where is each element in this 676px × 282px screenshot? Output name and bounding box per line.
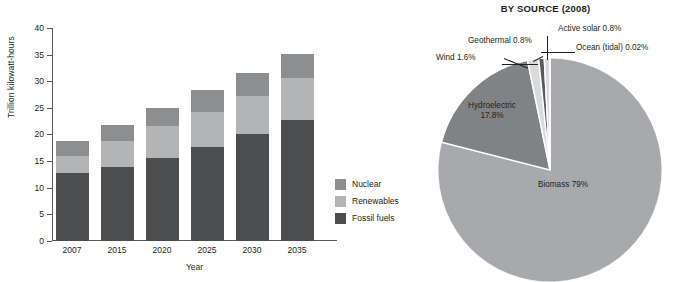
y-axis-tick-label: 40	[16, 23, 44, 33]
pie-label-hydroelectric-name: Hydroelectric	[453, 101, 531, 111]
legend-item-label: Fossil fuels	[352, 213, 395, 223]
y-axis-tick	[47, 214, 52, 215]
y-axis-tick	[47, 81, 52, 82]
y-axis-tick-label: 25	[16, 103, 44, 113]
y-axis-tick	[47, 241, 52, 242]
x-axis-tick-label: 2035	[272, 245, 322, 255]
bar-segment-nuclear-2030	[236, 73, 269, 95]
y-axis-tick	[47, 161, 52, 162]
legend-item-label: Nuclear	[352, 179, 381, 189]
bar-chart-legend: Nuclear Renewables Fossil fuels	[335, 176, 415, 227]
chart-page: Trillion kilowatt-hours 40 35 30 25 20 1…	[0, 0, 676, 282]
y-axis-line	[52, 28, 53, 241]
bar-segment-nuclear-2020	[146, 108, 179, 127]
x-axis-tick-label: 2025	[182, 245, 232, 255]
bar-segment-renewables-2035	[281, 78, 314, 120]
leader-line-ocean-tidal	[541, 52, 575, 53]
y-axis-tick-label: 35	[16, 50, 44, 60]
y-axis-tick	[47, 108, 52, 109]
legend-item-nuclear: Nuclear	[335, 176, 415, 192]
pie-label-hydroelectric-value: 17.8%	[453, 111, 531, 121]
bar-segment-nuclear-2015	[101, 125, 134, 141]
x-axis-tick-label: 2007	[47, 245, 97, 255]
y-axis-tick	[47, 55, 52, 56]
pie-label-hydroelectric: Hydroelectric 17.8%	[453, 101, 531, 122]
legend-swatch-icon	[335, 213, 346, 224]
bar-segment-nuclear-2025	[191, 90, 224, 111]
x-axis-tick-label: 2030	[227, 245, 277, 255]
bar-chart-panel: Trillion kilowatt-hours 40 35 30 25 20 1…	[0, 0, 415, 282]
y-axis-tick	[47, 28, 52, 29]
y-axis-tick-label: 20	[16, 129, 44, 139]
x-axis-tick-label: 2020	[137, 245, 187, 255]
x-axis-tick-label: 2015	[92, 245, 142, 255]
pie-slices-group	[438, 58, 662, 282]
pie-label-biomass-name: Biomass 79%	[521, 180, 605, 190]
y-axis-tick-label: 30	[16, 76, 44, 86]
pie-callout-active-solar: Active solar 0.8%	[558, 24, 621, 33]
bar-segment-renewables-2015	[101, 141, 134, 168]
pie-chart-graphic	[437, 57, 663, 282]
pie-chart-panel: BY SOURCE (2008) Geothermal 0.8% Active …	[415, 0, 676, 282]
bar-segment-renewables-2007	[56, 156, 89, 174]
pie-label-biomass: Biomass 79%	[521, 180, 605, 190]
y-axis-tick	[47, 134, 52, 135]
bar-segment-renewables-2030	[236, 96, 269, 134]
pie-callout-ocean-tidal: Ocean (tidal) 0.02%	[576, 43, 648, 52]
bar-segment-fossil-fuels-2025	[191, 147, 224, 241]
y-axis-tick-label: 5	[16, 209, 44, 219]
pie-callout-wind: Wind 1.6%	[436, 53, 476, 62]
bar-segment-fossil-fuels-2035	[281, 120, 314, 241]
legend-swatch-icon	[335, 196, 346, 207]
y-axis-tick-label: 0	[16, 236, 44, 246]
bar-segment-fossil-fuels-2015	[101, 167, 134, 240]
bar-segment-renewables-2020	[146, 126, 179, 157]
bar-segment-renewables-2025	[191, 112, 224, 147]
legend-item-fossil-fuels: Fossil fuels	[335, 210, 415, 226]
pie-callout-geothermal: Geothermal 0.8%	[468, 36, 532, 45]
leader-line-active-solar	[547, 36, 548, 60]
bar-chart-x-axis-title: Year	[52, 262, 337, 272]
y-axis-tick	[47, 188, 52, 189]
legend-item-renewables: Renewables	[335, 193, 415, 209]
pie-chart-title-line-2: BY SOURCE (2008)	[415, 3, 676, 14]
y-axis-tick-label: 10	[16, 183, 44, 193]
bar-segment-fossil-fuels-2007	[56, 173, 89, 241]
legend-item-label: Renewables	[352, 196, 399, 206]
legend-swatch-icon	[335, 179, 346, 190]
bar-segment-nuclear-2007	[56, 141, 89, 155]
bar-segment-fossil-fuels-2020	[146, 158, 179, 241]
bar-segment-fossil-fuels-2030	[236, 134, 269, 241]
bar-segment-nuclear-2035	[281, 54, 314, 78]
leader-line-wind	[502, 64, 538, 65]
y-axis-tick-label: 15	[16, 156, 44, 166]
